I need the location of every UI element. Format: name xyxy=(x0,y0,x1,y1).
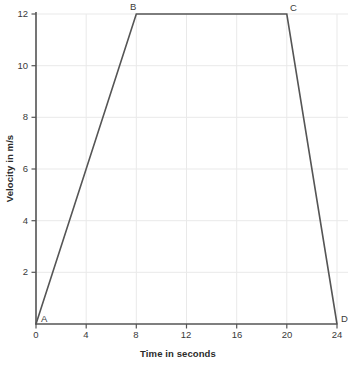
x-tick-label-0: 0 xyxy=(21,329,51,340)
point-label-c: C xyxy=(290,2,297,13)
y-tick-label-12: 12 xyxy=(4,8,28,19)
grid-lines-horizontal xyxy=(36,14,348,272)
point-label-d: D xyxy=(341,313,348,324)
x-tick-label-4: 4 xyxy=(71,329,101,340)
x-axis-title: Time in seconds xyxy=(0,348,356,359)
point-label-b: B xyxy=(130,1,136,12)
x-tick-label-16: 16 xyxy=(222,329,252,340)
x-tick-label-20: 20 xyxy=(272,329,302,340)
x-tick-label-12: 12 xyxy=(171,329,201,340)
y-axis-title: Velocity in m/s xyxy=(4,99,15,239)
y-tick-label-10: 10 xyxy=(4,60,28,71)
velocity-time-chart: 0 4 8 12 16 20 24 2 4 6 8 10 12 A B C D … xyxy=(0,0,356,367)
x-tick-label-8: 8 xyxy=(121,329,151,340)
plot-area xyxy=(0,0,356,367)
y-tick-label-2: 2 xyxy=(4,266,28,277)
point-label-a: A xyxy=(41,313,47,324)
x-tick-label-24: 24 xyxy=(322,329,352,340)
